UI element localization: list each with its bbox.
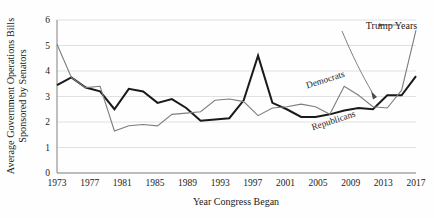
series-line-republicans bbox=[57, 56, 416, 121]
x-tick-label: 1993 bbox=[211, 178, 230, 188]
y-tick-label: 5 bbox=[45, 41, 50, 51]
x-tick-label: 2017 bbox=[407, 178, 426, 188]
leader-arrowhead-down bbox=[371, 91, 377, 100]
x-tick-label: 1989 bbox=[178, 178, 197, 188]
y-axis-tick-labels: 0123456 bbox=[45, 15, 50, 178]
x-tick-label: 1977 bbox=[80, 178, 99, 188]
x-tick-label: 1973 bbox=[48, 178, 67, 188]
annotation-republicans: Republicans bbox=[310, 109, 357, 133]
annotation-leader-lines bbox=[342, 23, 400, 99]
y-tick-label: 6 bbox=[45, 15, 50, 25]
gridlines bbox=[57, 20, 416, 173]
y-axis-title: Average Government Operations Bills bbox=[5, 18, 16, 174]
x-tick-label: 2001 bbox=[276, 178, 295, 188]
y-tick-label: 2 bbox=[45, 117, 50, 127]
x-tick-label: 1981 bbox=[113, 178, 132, 188]
x-tick-label: 2005 bbox=[309, 178, 328, 188]
x-tick-label: 2013 bbox=[374, 178, 393, 188]
x-tick-label: 1997 bbox=[243, 178, 262, 188]
y-axis-title-line2: Sponsored by Senators bbox=[17, 49, 28, 142]
chart-figure: 0123456 19731977198119851989199319972001… bbox=[0, 0, 434, 218]
x-axis-title: Year Congress Began bbox=[193, 196, 279, 207]
annotation-democrats: Democrats bbox=[305, 69, 346, 91]
x-tick-label: 1985 bbox=[145, 178, 164, 188]
leader-line-curved bbox=[342, 31, 372, 92]
annotation-trump-years: Trump Years bbox=[366, 20, 417, 31]
y-tick-label: 4 bbox=[45, 66, 50, 76]
line-chart-canvas: 0123456 19731977198119851989199319972001… bbox=[0, 0, 434, 218]
y-tick-label: 1 bbox=[45, 143, 50, 153]
y-tick-label: 0 bbox=[45, 168, 50, 178]
x-axis-tick-labels: 1973197719811985198919931997200120052009… bbox=[48, 178, 426, 188]
x-tick-label: 2009 bbox=[341, 178, 360, 188]
y-tick-label: 3 bbox=[45, 92, 50, 102]
